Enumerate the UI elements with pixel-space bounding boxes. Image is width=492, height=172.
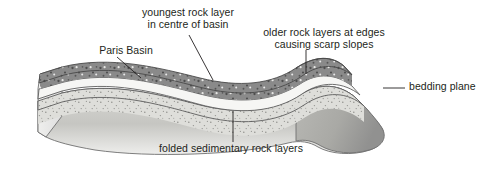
diagram-canvas: youngest rock layerin centre of basin ol… xyxy=(0,0,492,172)
label-folded-sedimentary-rock-layers: folded sedimentary rock layers xyxy=(133,142,329,154)
label-older-line2: causing scarp slopes xyxy=(274,38,373,50)
label-bedding-plane: bedding plane xyxy=(409,80,492,92)
rock-block xyxy=(30,50,384,154)
label-youngest-line1: youngest rock layer xyxy=(142,6,234,18)
leader-youngest xyxy=(189,35,213,80)
label-older-rock-layers: older rock layers at edgescausing scarp … xyxy=(245,26,403,50)
label-paris-basin: Paris Basin xyxy=(80,44,172,56)
label-youngest-rock-layer: youngest rock layerin centre of basin xyxy=(122,6,254,30)
label-older-line1: older rock layers at edges xyxy=(263,26,385,38)
label-youngest-line2: in centre of basin xyxy=(148,18,229,30)
